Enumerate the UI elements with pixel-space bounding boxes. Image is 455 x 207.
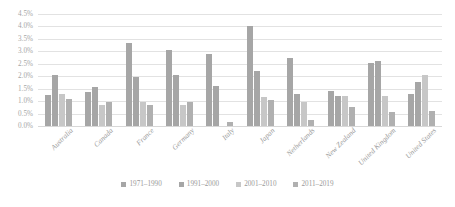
bar xyxy=(422,75,428,126)
y-axis-tick-label: 1.5% xyxy=(18,85,33,93)
x-axis-tick-label: France xyxy=(134,126,155,147)
bar-group xyxy=(402,14,442,126)
bar xyxy=(85,92,91,126)
bar-group xyxy=(119,14,159,126)
x-axis-tick-label: Japan xyxy=(257,126,276,145)
bar xyxy=(261,97,267,126)
x-axis-tick-label: United States xyxy=(404,126,438,160)
bar-group xyxy=(280,14,320,126)
y-axis-tick-label: 2.0% xyxy=(18,72,33,80)
bar xyxy=(187,102,193,126)
x-axis-tick-label: Germany xyxy=(170,126,196,152)
bar xyxy=(52,75,58,126)
y-axis-tick-label: 3.5% xyxy=(18,35,33,43)
y-axis-tick-label: 2.5% xyxy=(18,60,33,68)
bar xyxy=(382,96,388,126)
x-axis-tick-label: New Zealand xyxy=(323,126,357,160)
bar xyxy=(106,102,112,126)
bar xyxy=(180,105,186,126)
x-axis-tick-label: Canada xyxy=(92,126,115,149)
bar xyxy=(375,61,381,126)
bar xyxy=(247,26,253,126)
bar xyxy=(342,96,348,126)
y-axis-tick-label: 0.5% xyxy=(18,110,33,118)
bar xyxy=(415,82,421,126)
legend-item[interactable]: 1971–1990 xyxy=(121,180,161,188)
plot-area xyxy=(38,14,442,126)
bar-groups xyxy=(38,14,442,126)
bar xyxy=(368,63,374,126)
bar-chart: 4.5%4.0%3.5%3.0%2.5%2.0%1.5%1.0%0.5%0.0%… xyxy=(0,0,455,207)
bar-group xyxy=(38,14,78,126)
legend-item[interactable]: 2001–2010 xyxy=(236,180,276,188)
bar-group xyxy=(78,14,118,126)
bar xyxy=(206,54,212,126)
y-axis-tick-label: 1.0% xyxy=(18,97,33,105)
bar xyxy=(213,86,219,126)
bar xyxy=(349,107,355,126)
bar-group xyxy=(321,14,361,126)
bar xyxy=(45,95,51,126)
bar xyxy=(294,94,300,126)
bar xyxy=(92,87,98,126)
y-axis-tick-label: 4.5% xyxy=(18,10,33,18)
x-axis-tick-label: Australia xyxy=(49,126,75,152)
bar xyxy=(287,58,293,126)
bar xyxy=(66,99,72,126)
bar-group xyxy=(361,14,401,126)
y-axis: 4.5%4.0%3.5%3.0%2.5%2.0%1.5%1.0%0.5%0.0% xyxy=(0,0,36,126)
bar-group xyxy=(200,14,240,126)
bar xyxy=(408,94,414,126)
chart-legend: 1971–19901991–20002001–20102011–2019 xyxy=(0,180,455,188)
legend-item[interactable]: 1991–2000 xyxy=(179,180,219,188)
y-axis-tick-label: 0.0% xyxy=(18,122,33,130)
x-axis-tick-label: Netherlands xyxy=(285,126,317,158)
bar xyxy=(328,91,334,126)
legend-item[interactable]: 2011–2019 xyxy=(293,180,333,188)
bar xyxy=(389,112,395,126)
bar xyxy=(173,75,179,126)
bar-group xyxy=(159,14,199,126)
bar xyxy=(301,102,307,126)
legend-swatch-icon xyxy=(236,182,241,187)
x-axis: AustraliaCanadaFranceGermanyItalyJapanNe… xyxy=(38,126,442,174)
bar xyxy=(429,111,435,126)
bar xyxy=(147,105,153,126)
legend-swatch-icon xyxy=(293,182,298,187)
bar xyxy=(140,102,146,126)
legend-label: 2011–2019 xyxy=(301,180,333,188)
bar xyxy=(268,100,274,126)
bar xyxy=(335,96,341,126)
legend-label: 1991–2000 xyxy=(187,180,219,188)
legend-swatch-icon xyxy=(179,182,184,187)
bar xyxy=(126,43,132,126)
bar xyxy=(254,71,260,126)
bar xyxy=(133,77,139,126)
legend-label: 1971–1990 xyxy=(129,180,161,188)
bar xyxy=(166,50,172,126)
x-axis-tick-label: Italy xyxy=(220,126,236,142)
bar-group xyxy=(240,14,280,126)
y-axis-tick-label: 4.0% xyxy=(18,22,33,30)
legend-label: 2001–2010 xyxy=(244,180,276,188)
legend-swatch-icon xyxy=(121,182,126,187)
x-axis-tick-label: United Kingdom xyxy=(357,126,398,167)
bar xyxy=(59,94,65,126)
y-axis-tick-label: 3.0% xyxy=(18,47,33,55)
bar xyxy=(99,105,105,126)
